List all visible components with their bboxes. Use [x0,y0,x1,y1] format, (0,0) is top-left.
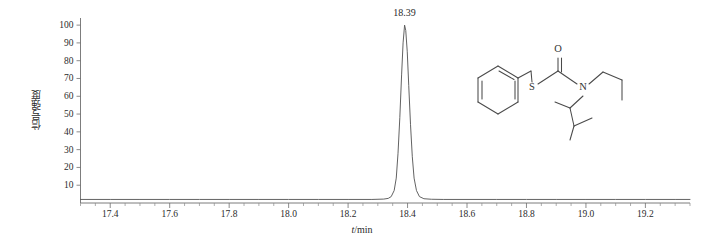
y-axis-title: 信号强度 [31,90,45,130]
benzene-ring-icon [478,66,518,114]
molecule-svg: S O N [470,38,640,143]
x-tick-label: 18.8 [518,209,535,219]
y-tick-label: 10 [47,180,74,190]
y-tick-label: 100 [47,20,74,30]
y-tick-label: 90 [47,38,74,48]
y-tick-label: 30 [47,145,74,155]
x-tick-label: 19.0 [578,209,595,219]
x-tick-label: 19.2 [637,209,654,219]
sulfur-atom-label: S [529,81,535,92]
y-tick-label: 80 [47,56,74,66]
y-tick-label: 50 [47,109,74,119]
x-tick-label: 17.6 [161,209,178,219]
x-axis-title-unit: /min [354,224,372,235]
x-tick-label: 18.4 [399,209,416,219]
x-axis-title: t/min [351,224,372,235]
y-tick-label: 40 [47,127,74,137]
y-tick-label: 70 [47,73,74,83]
y-tick-label: 60 [47,91,74,101]
oxygen-atom-label: O [554,43,562,54]
x-tick-label: 17.4 [102,209,119,219]
molecular-structure-inset: S O N [470,38,640,143]
x-axis-ticks [81,203,691,208]
benzyl-linker-bonds [518,71,532,82]
y-tick-label: 20 [47,162,74,172]
y-axis-ticks [77,25,81,185]
x-tick-label: 18.6 [459,209,476,219]
peak-retention-time-label: 18.39 [393,7,416,18]
nitrogen-atom-label: N [579,81,587,92]
x-tick-label: 17.8 [221,209,238,219]
thioester-bonds [538,58,577,84]
x-tick-label: 18.2 [340,209,357,219]
amine-substituent-bonds [555,72,622,140]
x-tick-label: 18.0 [280,209,297,219]
chromatogram-figure: 102030405060708090100 17.417.617.818.018… [0,0,702,243]
